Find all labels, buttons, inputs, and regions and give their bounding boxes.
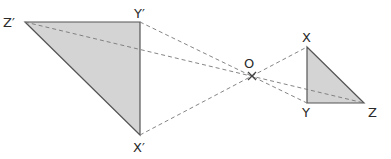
label-z-prime: Z′: [3, 15, 15, 30]
object-triangle: [307, 47, 364, 103]
image-triangle: [25, 22, 140, 135]
centre-o-cross-icon: [248, 72, 256, 80]
label-o: O: [244, 56, 254, 71]
enlargement-diagram: Z′ Y′ X′ O X Y Z: [0, 0, 391, 159]
diagram-svg: Z′ Y′ X′ O X Y Z: [0, 0, 391, 159]
label-y: Y: [301, 105, 310, 120]
label-x: X: [302, 30, 311, 45]
label-x-prime: X′: [133, 140, 145, 155]
label-z: Z: [368, 105, 377, 120]
label-y-prime: Y′: [133, 6, 145, 21]
